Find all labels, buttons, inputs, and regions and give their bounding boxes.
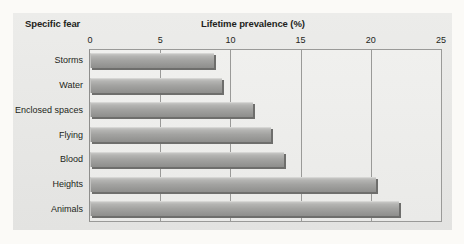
- chart-panel: Specific fear Lifetime prevalence (%) 05…: [13, 13, 452, 230]
- category-label-storms: Storms: [54, 55, 83, 65]
- bar-shadow: [399, 203, 401, 218]
- bar-row: [90, 198, 441, 223]
- category-label-animals: Animals: [51, 204, 83, 214]
- bar-row: [90, 124, 441, 149]
- bar[interactable]: [90, 53, 214, 70]
- bar[interactable]: [90, 127, 271, 144]
- bar[interactable]: [90, 201, 399, 218]
- bar-shadow: [271, 129, 273, 144]
- bar-shadow: [284, 154, 286, 169]
- bar-shadow: [92, 216, 399, 218]
- bar-shadow: [214, 55, 216, 70]
- value-tick-label: 0: [87, 35, 92, 45]
- plot-area: [89, 49, 442, 222]
- bar-fill: [90, 102, 253, 117]
- category-label-water: Water: [59, 80, 83, 90]
- bar-fill: [90, 127, 271, 142]
- value-tick-label: 5: [158, 35, 163, 45]
- bar-shadow: [222, 80, 224, 95]
- bar-fill: [90, 152, 284, 167]
- bar[interactable]: [90, 152, 284, 169]
- bar-shadow: [253, 104, 255, 119]
- bar-fill: [90, 201, 399, 216]
- category-label-heights: Heights: [52, 179, 83, 189]
- bar-fill: [90, 177, 376, 192]
- bar-shadow: [376, 179, 378, 194]
- bar-fill: [90, 78, 222, 93]
- bar-row: [90, 99, 441, 124]
- bar-shadow: [92, 117, 253, 119]
- bar-fill: [90, 53, 214, 68]
- category-axis-title: Specific fear: [25, 18, 80, 29]
- bar-shadow: [92, 167, 284, 169]
- value-tick-label: 25: [436, 35, 446, 45]
- category-label-enclosed-spaces: Enclosed spaces: [15, 105, 83, 115]
- bar-rows: [90, 50, 441, 221]
- value-tick-label: 20: [366, 35, 376, 45]
- bar-shadow: [92, 192, 376, 194]
- category-label-blood: Blood: [60, 154, 83, 164]
- bar-row: [90, 50, 441, 75]
- value-axis-tick-labels: 0510152025: [13, 35, 452, 49]
- chart-figure: Specific fear Lifetime prevalence (%) 05…: [0, 0, 464, 244]
- bar-row: [90, 75, 441, 100]
- bar-shadow: [92, 142, 271, 144]
- category-axis-tick-labels: StormsWaterEnclosed spacesFlyingBloodHei…: [13, 49, 89, 222]
- value-tick-label: 15: [296, 35, 306, 45]
- bar[interactable]: [90, 177, 376, 194]
- bar[interactable]: [90, 102, 253, 119]
- bar-shadow: [92, 68, 214, 70]
- value-axis-title: Lifetime prevalence (%): [201, 18, 305, 29]
- chart-header: Specific fear Lifetime prevalence (%): [13, 13, 452, 36]
- bar[interactable]: [90, 78, 222, 95]
- bar-row: [90, 149, 441, 174]
- bar-row: [90, 174, 441, 199]
- bar-shadow: [92, 93, 222, 95]
- category-label-flying: Flying: [59, 130, 83, 140]
- value-tick-label: 10: [225, 35, 235, 45]
